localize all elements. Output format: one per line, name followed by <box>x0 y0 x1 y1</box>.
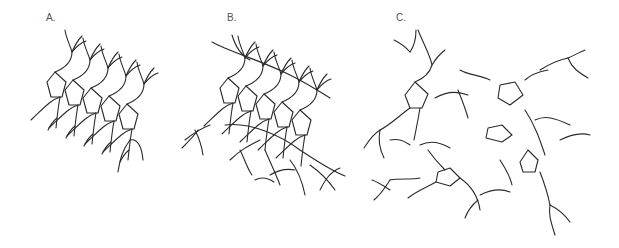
panel-a: A. <box>0 0 170 248</box>
ordered-network-diagram <box>0 0 170 248</box>
random-network-diagram <box>360 0 619 248</box>
panel-c: C. <box>360 0 619 248</box>
panel-b: B. <box>170 0 360 248</box>
crosslinked-network-diagram <box>170 0 360 248</box>
